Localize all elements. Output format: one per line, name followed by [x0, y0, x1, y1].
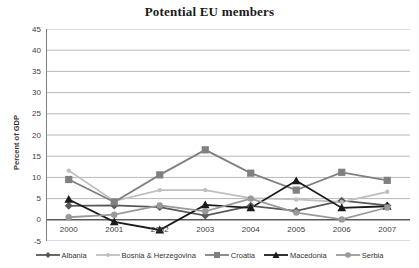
circle-marker — [157, 202, 163, 208]
legend-label: Bosnia & Herzegovina — [122, 251, 196, 260]
legend-label: Croatia — [231, 251, 255, 260]
square-marker — [384, 177, 391, 184]
y-tick-label: 40 — [15, 46, 41, 55]
legend-marker-icon — [336, 250, 360, 260]
chart-legend: AlbaniaBosnia & HerzegovinaCroatiaMacedo… — [0, 250, 419, 260]
y-tick-label: 30 — [15, 88, 41, 97]
circle-marker — [384, 204, 390, 210]
legend-item-macedonia: Macedonia — [264, 250, 327, 260]
small-circle-marker — [203, 188, 207, 192]
x-tick-label: 2004 — [228, 225, 274, 234]
square-marker — [338, 169, 345, 176]
legend-label: Serbia — [362, 251, 384, 260]
square-marker — [111, 198, 118, 205]
square-marker — [293, 187, 300, 194]
small-circle-marker — [294, 197, 298, 201]
y-tick-label: 25 — [15, 109, 41, 118]
square-marker — [156, 171, 163, 178]
circle-marker — [202, 208, 208, 214]
legend-item-bosnia-herzegovina: Bosnia & Herzegovina — [96, 250, 196, 260]
x-tick-label: 2006 — [319, 225, 365, 234]
x-tick-label: 2007 — [364, 225, 410, 234]
y-tick-label: 20 — [15, 131, 41, 140]
square-marker — [65, 176, 72, 183]
x-tick-label: 2003 — [182, 225, 228, 234]
y-tick-label: 5 — [15, 194, 41, 203]
y-tick-label: 45 — [15, 25, 41, 34]
x-tick-label: 2000 — [46, 225, 92, 234]
circle-marker — [248, 195, 254, 201]
y-tick-label: -5 — [15, 237, 41, 246]
small-circle-marker — [67, 168, 71, 172]
legend-item-croatia: Croatia — [205, 250, 255, 260]
legend-item-albania: Albania — [36, 250, 87, 260]
legend-marker-icon — [36, 250, 60, 260]
legend-label: Macedonia — [290, 251, 327, 260]
small-circle-marker — [385, 190, 389, 194]
circle-marker — [293, 209, 299, 215]
chart: Potential EU members Percent of GDP 4540… — [0, 0, 419, 268]
x-tick-label: 2002 — [137, 225, 183, 234]
legend-marker-icon — [96, 250, 120, 260]
y-tick-label: 35 — [15, 67, 41, 76]
small-circle-marker — [158, 188, 162, 192]
circle-marker — [111, 212, 117, 218]
plot-area — [46, 29, 410, 241]
x-tick-label: 2001 — [91, 225, 137, 234]
circle-marker — [66, 214, 72, 220]
legend-marker-icon — [264, 250, 288, 260]
legend-label: Albania — [62, 251, 87, 260]
y-tick-label: 10 — [15, 173, 41, 182]
diamond-marker — [65, 202, 73, 210]
legend-item-serbia: Serbia — [336, 250, 384, 260]
square-marker — [202, 146, 209, 153]
y-tick-label: 0 — [15, 215, 41, 224]
square-marker — [247, 170, 254, 177]
chart-title: Potential EU members — [0, 4, 419, 20]
legend-marker-icon — [205, 250, 229, 260]
circle-marker — [339, 216, 345, 222]
y-tick-label: 15 — [15, 152, 41, 161]
x-tick-label: 2005 — [273, 225, 319, 234]
